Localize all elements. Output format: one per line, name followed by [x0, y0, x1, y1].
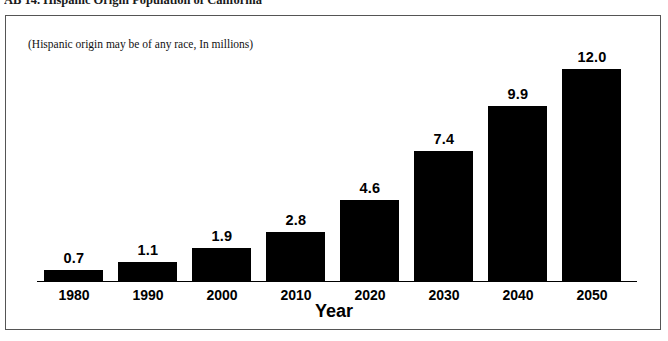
bar-value-label: 2.8	[259, 212, 333, 228]
bar-group: 1.92000	[185, 16, 259, 331]
bar-group: 0.71980	[37, 16, 111, 331]
bar	[414, 151, 473, 282]
bar-value-label: 12.0	[555, 49, 629, 65]
bar-value-label: 9.9	[481, 86, 555, 102]
document-title: AB 14. Hispanic Origin Population of Cal…	[4, 0, 664, 7]
bar-group: 1.11990	[111, 16, 185, 331]
bar	[562, 69, 621, 282]
plot-area: 0.719801.119901.920002.820104.620207.420…	[6, 16, 662, 331]
x-axis-line	[37, 281, 637, 282]
bar	[340, 200, 399, 282]
x-axis-title: Year	[6, 301, 662, 322]
bar	[488, 106, 547, 282]
bar-group: 9.92040	[481, 16, 555, 331]
bar	[192, 248, 251, 282]
bar-value-label: 1.1	[111, 242, 185, 258]
bar-value-label: 7.4	[407, 131, 481, 147]
bar-value-label: 1.9	[185, 228, 259, 244]
bar-group: 7.42030	[407, 16, 481, 331]
bar	[118, 262, 177, 282]
bar-group: 4.62020	[333, 16, 407, 331]
bar-value-label: 0.7	[37, 250, 111, 266]
chart-frame: (Hispanic origin may be of any race, In …	[5, 15, 661, 330]
bar	[266, 232, 325, 282]
bar-group: 2.82010	[259, 16, 333, 331]
bar-value-label: 4.6	[333, 180, 407, 196]
bar-group: 12.02050	[555, 16, 629, 331]
